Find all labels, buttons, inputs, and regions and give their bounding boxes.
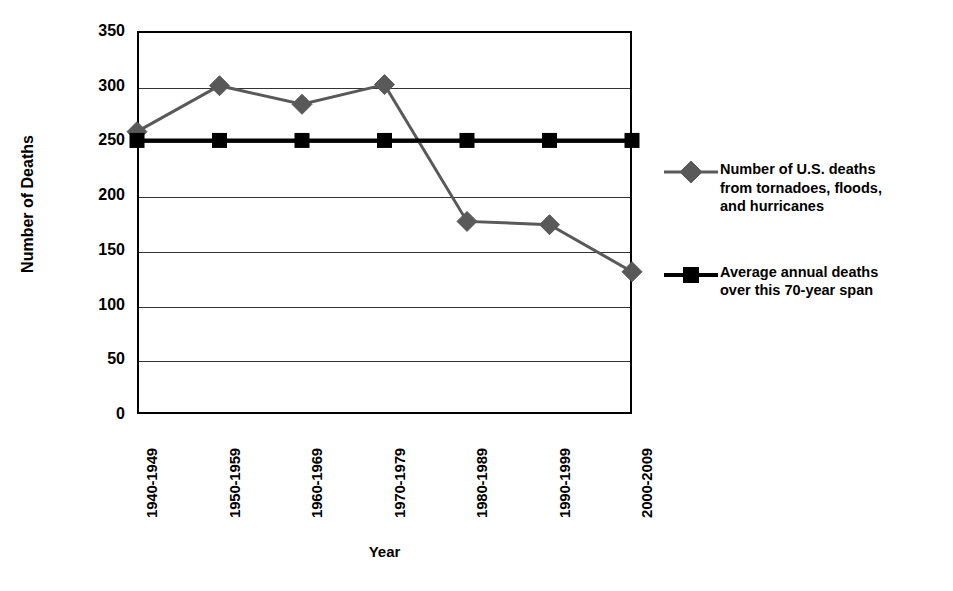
series-1 xyxy=(127,75,642,282)
y-tick-label: 0 xyxy=(55,406,125,422)
square-marker xyxy=(130,133,145,148)
diamond-icon xyxy=(662,155,720,189)
x-tick-label: 1950-1959 xyxy=(226,448,243,518)
x-tick-label: 2000-2009 xyxy=(638,448,655,518)
square-marker xyxy=(683,267,699,283)
x-tick-label: 1940-1949 xyxy=(143,448,160,518)
chart-legend: Number of U.S. deaths from tornadoes, fl… xyxy=(662,155,947,342)
y-tick-label: 50 xyxy=(55,351,125,367)
legend-entry: Average annual deaths over this 70-year … xyxy=(662,258,947,300)
legend-key xyxy=(662,258,720,292)
legend-key xyxy=(662,155,720,189)
y-tick-label: 100 xyxy=(55,297,125,313)
square-icon xyxy=(662,258,720,292)
y-tick-label: 350 xyxy=(55,23,125,39)
square-marker xyxy=(625,133,640,148)
legend-entry: Number of U.S. deaths from tornadoes, fl… xyxy=(662,155,947,216)
data-series-layer xyxy=(137,31,632,414)
y-tick-label: 300 xyxy=(55,78,125,94)
diamond-marker xyxy=(680,161,702,183)
diamond-marker xyxy=(540,215,560,235)
diamond-marker xyxy=(622,262,642,282)
x-axis-title: Year xyxy=(137,543,632,560)
square-marker xyxy=(212,133,227,148)
square-marker xyxy=(542,133,557,148)
x-tick-label: 1990-1999 xyxy=(556,448,573,518)
series-2 xyxy=(130,133,640,148)
diamond-marker xyxy=(457,211,477,231)
series-line xyxy=(137,85,632,272)
y-tick-label: 150 xyxy=(55,242,125,258)
x-tick-label: 1980-1989 xyxy=(473,448,490,518)
y-axis-title: Number of Deaths xyxy=(19,114,37,294)
square-marker xyxy=(295,133,310,148)
chart-figure: Number of Deaths 050100150200250300350 1… xyxy=(0,0,953,591)
x-tick-label: 1970-1979 xyxy=(391,448,408,518)
x-tick-label: 1960-1969 xyxy=(308,448,325,518)
square-marker xyxy=(460,133,475,148)
legend-label: Average annual deaths over this 70-year … xyxy=(720,258,878,300)
diamond-marker xyxy=(375,75,395,95)
legend-label: Number of U.S. deaths from tornadoes, fl… xyxy=(720,155,882,216)
diamond-marker xyxy=(210,76,230,96)
diamond-marker xyxy=(292,94,312,114)
square-marker xyxy=(377,133,392,148)
y-tick-label: 250 xyxy=(55,132,125,148)
y-tick-label: 200 xyxy=(55,187,125,203)
